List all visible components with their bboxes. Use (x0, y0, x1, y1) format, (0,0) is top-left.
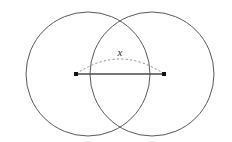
arc-label-x: x (118, 47, 123, 58)
dashed-arc (76, 59, 164, 74)
figure-canvas (0, 0, 232, 142)
geometry-figure: x (0, 0, 232, 142)
left-point-marker (74, 72, 78, 76)
right-point-marker (162, 72, 166, 76)
